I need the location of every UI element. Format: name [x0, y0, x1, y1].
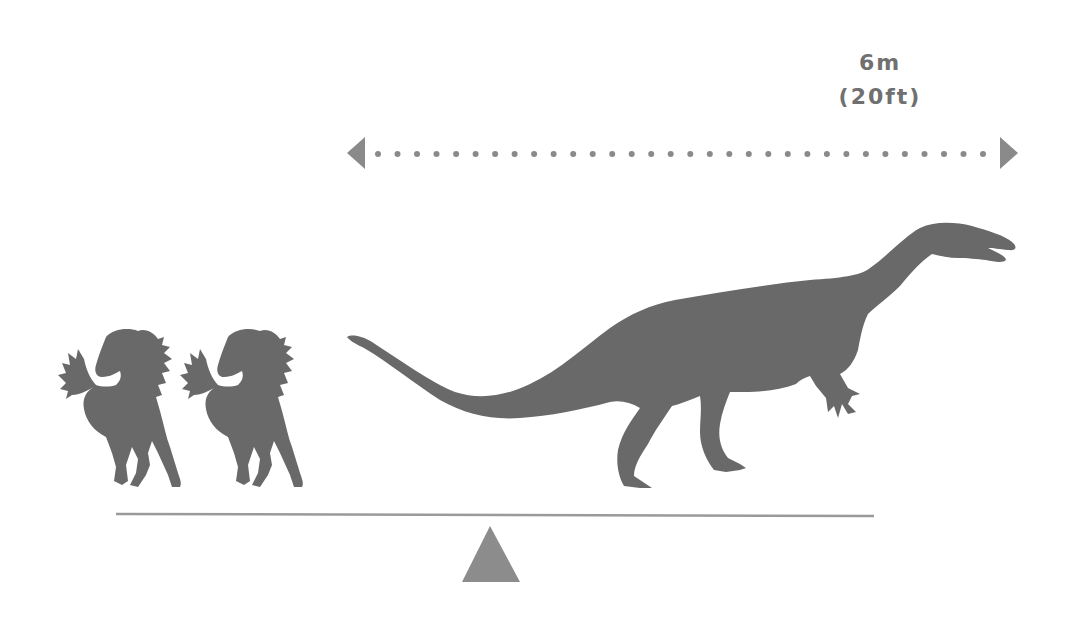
arrow-dot [531, 151, 537, 157]
arrow-dot [902, 151, 908, 157]
arrow-dot [629, 151, 635, 157]
arrow-dot [707, 151, 713, 157]
arrow-dotted-line [375, 151, 986, 157]
horse-icon [180, 329, 303, 487]
arrow-right-head-icon [1000, 137, 1018, 169]
dinosaur-icon [347, 223, 1015, 488]
arrow-dot [609, 151, 615, 157]
horse-icon [58, 329, 181, 487]
arrow-dot [765, 151, 771, 157]
seesaw-beam [116, 514, 874, 516]
arrow-left-head-icon [347, 137, 365, 169]
arrow-dot [395, 151, 401, 157]
arrow-dot [843, 151, 849, 157]
arrow-dot [512, 151, 518, 157]
arrow-dot [941, 151, 947, 157]
arrow-dot [492, 151, 498, 157]
arrow-dot [726, 151, 732, 157]
arrow-dot [570, 151, 576, 157]
arrow-dot [863, 151, 869, 157]
arrow-dot [434, 151, 440, 157]
diagram-canvas [0, 0, 1065, 634]
arrow-dot [414, 151, 420, 157]
arrow-dot [473, 151, 479, 157]
arrow-dot [785, 151, 791, 157]
arrow-dot [375, 151, 381, 157]
length-arrow [347, 137, 1018, 169]
arrow-dot [804, 151, 810, 157]
arrow-dot [687, 151, 693, 157]
arrow-dot [668, 151, 674, 157]
arrow-dot [453, 151, 459, 157]
arrow-dot [961, 151, 967, 157]
arrow-dot [648, 151, 654, 157]
fulcrum-triangle [462, 526, 520, 582]
arrow-dot [980, 151, 986, 157]
arrow-dot [922, 151, 928, 157]
arrow-dot [824, 151, 830, 157]
arrow-dot [551, 151, 557, 157]
arrow-dot [746, 151, 752, 157]
arrow-dot [882, 151, 888, 157]
arrow-dot [590, 151, 596, 157]
